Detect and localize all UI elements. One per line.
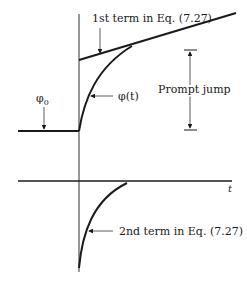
phi-t-curve (79, 46, 132, 131)
phi0-label: φ0 (36, 92, 49, 107)
phi0-label-subscript: 0 (44, 98, 49, 107)
prompt-jump-label: Prompt jump (158, 83, 231, 96)
second-term-label: 2nd term in Eq. (7.27) (119, 225, 243, 238)
phi-t-label: φ(t) (118, 90, 139, 103)
diagram-canvas: 1st term in Eq. (7.27) φ(t) φ0 Prompt ju… (0, 0, 247, 286)
diagram-svg: 1st term in Eq. (7.27) φ(t) φ0 Prompt ju… (0, 0, 247, 286)
first-term-label: 1st term in Eq. (7.27) (92, 12, 212, 25)
t-axis-label: t (228, 183, 233, 194)
